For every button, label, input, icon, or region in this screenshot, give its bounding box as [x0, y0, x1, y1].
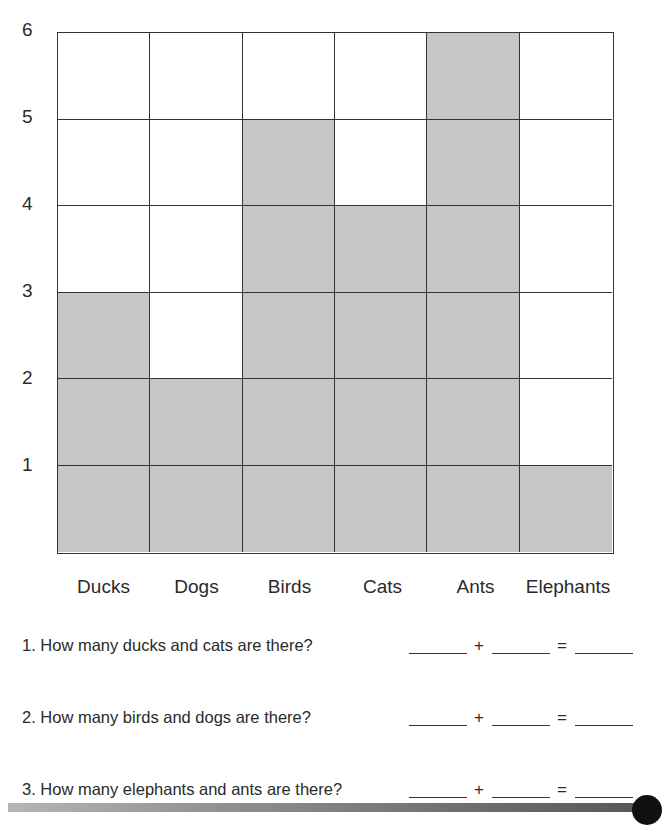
grid-cell-birds-5 [243, 120, 335, 207]
grid-cell-cats-6 [335, 33, 427, 120]
grid-cell-dogs-5 [150, 120, 242, 207]
footer-gradient-bar [8, 803, 654, 812]
grid-cell-ducks-2 [58, 379, 150, 466]
grid-cell-cats-1 [335, 466, 427, 553]
x-label-ducks: Ducks [57, 576, 150, 598]
grid-cell-dogs-3 [150, 293, 242, 380]
question-text: 2. How many birds and dogs are there? [22, 708, 311, 727]
x-label-cats: Cats [336, 576, 429, 598]
grid-cell-birds-3 [243, 293, 335, 380]
grid-cell-ducks-6 [58, 33, 150, 120]
grid-cell-cats-5 [335, 120, 427, 207]
answer-blank-sum[interactable] [575, 725, 633, 726]
y-label-1: 1 [22, 455, 52, 474]
grid-cell-ducks-3 [58, 293, 150, 380]
grid-cell-ants-2 [427, 379, 519, 466]
grid-cell-elephants-6 [520, 33, 612, 120]
grid-cell-birds-6 [243, 33, 335, 120]
grid-cell-elephants-2 [520, 379, 612, 466]
grid-cell-ants-6 [427, 33, 519, 120]
grid-cell-elephants-3 [520, 293, 612, 380]
y-label-3: 3 [22, 281, 52, 300]
x-label-elephants: Elephants [518, 576, 618, 598]
page-corner-circle-icon [632, 795, 662, 825]
answer-blank-1[interactable] [409, 653, 467, 654]
question-text: 3. How many elephants and ants are there… [22, 780, 342, 799]
grid-cell-cats-2 [335, 379, 427, 466]
plus-sign: + [474, 636, 484, 656]
grid-cell-dogs-6 [150, 33, 242, 120]
equals-sign: = [557, 708, 567, 728]
plus-sign: + [474, 780, 484, 800]
x-label-ants: Ants [429, 576, 522, 598]
y-label-5: 5 [22, 107, 52, 126]
grid-cell-elephants-1 [520, 466, 612, 553]
answer-blank-2[interactable] [492, 797, 550, 798]
answer-blank-2[interactable] [492, 653, 550, 654]
equals-sign: = [557, 636, 567, 656]
plus-sign: + [474, 708, 484, 728]
y-label-6: 6 [22, 20, 52, 39]
y-label-4: 4 [22, 194, 52, 213]
grid-cell-cats-4 [335, 206, 427, 293]
bar-chart-grid [57, 32, 614, 554]
x-label-dogs: Dogs [150, 576, 243, 598]
grid-cell-ducks-5 [58, 120, 150, 207]
grid-cell-cats-3 [335, 293, 427, 380]
grid-cell-birds-4 [243, 206, 335, 293]
grid-cell-dogs-4 [150, 206, 242, 293]
y-label-2: 2 [22, 368, 52, 387]
answer-blank-1[interactable] [409, 725, 467, 726]
equals-sign: = [557, 780, 567, 800]
grid-cell-dogs-1 [150, 466, 242, 553]
answer-blank-sum[interactable] [575, 797, 633, 798]
answer-blank-sum[interactable] [575, 653, 633, 654]
grid-cell-ants-4 [427, 206, 519, 293]
grid-cell-elephants-4 [520, 206, 612, 293]
answer-blank-2[interactable] [492, 725, 550, 726]
grid-cell-ants-5 [427, 120, 519, 207]
question-text: 1. How many ducks and cats are there? [22, 636, 313, 655]
grid-cell-ants-3 [427, 293, 519, 380]
grid-cell-ducks-4 [58, 206, 150, 293]
grid-cell-elephants-5 [520, 120, 612, 207]
grid-cell-ducks-1 [58, 466, 150, 553]
grid-cell-dogs-2 [150, 379, 242, 466]
grid-cell-birds-1 [243, 466, 335, 553]
grid-cell-ants-1 [427, 466, 519, 553]
grid-cell-birds-2 [243, 379, 335, 466]
answer-blank-1[interactable] [409, 797, 467, 798]
x-label-birds: Birds [243, 576, 336, 598]
